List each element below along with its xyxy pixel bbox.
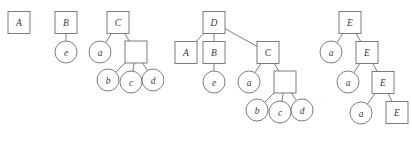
tree-edge <box>367 94 375 105</box>
nodes-layer: ABeCabcdDABCeabcdEaEaEaE <box>8 12 408 125</box>
tree-node-b: b <box>97 69 119 91</box>
tree-edge <box>337 34 343 43</box>
node-label: a <box>359 109 364 119</box>
tree-node-c: c <box>120 71 142 93</box>
tree-node-e: E <box>386 102 408 124</box>
tree-edge <box>196 34 203 42</box>
tree-node-e: e <box>203 71 225 93</box>
node-label: b <box>255 106 260 116</box>
node-label: a <box>247 78 252 88</box>
nonterminal-node-square <box>125 41 147 63</box>
tree-edge <box>116 63 125 72</box>
tree-node-a: a <box>238 71 260 93</box>
node-label: E <box>346 18 353 28</box>
tree-edge <box>356 34 361 42</box>
node-label: E <box>379 78 386 88</box>
tree-node-d: d <box>291 99 313 121</box>
tree-edge <box>125 34 130 42</box>
tree-node-d: d <box>142 69 164 91</box>
node-label: e <box>212 78 216 88</box>
node-label: E <box>363 48 370 58</box>
tree-edge <box>388 94 392 102</box>
tree-node-e: E <box>339 12 361 34</box>
tree-node-a: a <box>320 41 342 63</box>
tree-edge <box>274 64 278 72</box>
nonterminal-node-square <box>274 71 296 93</box>
tree-node-e: E <box>372 72 394 94</box>
tree-node-a: A <box>175 42 197 64</box>
tree-edge <box>106 34 112 43</box>
tree-node-empty <box>125 41 147 63</box>
tree-node-a: a <box>337 71 359 93</box>
node-label: D <box>210 18 218 28</box>
node-label: a <box>98 48 103 58</box>
node-label: B <box>211 48 217 58</box>
tree-edge <box>265 93 274 102</box>
diagram-root: ABeCabcdDABCeabcdEaEaEaE <box>0 0 412 147</box>
node-label: A <box>15 18 22 28</box>
tree-node-c: C <box>107 12 129 34</box>
tree-edge <box>292 93 297 101</box>
tree-node-c: c <box>269 101 291 123</box>
tree-node-b: B <box>203 42 225 64</box>
node-label: a <box>346 78 351 88</box>
tree-node-a: A <box>8 12 30 34</box>
tree-edge <box>282 93 283 101</box>
tree-node-e: e <box>55 41 77 63</box>
tree-node-empty <box>274 71 296 93</box>
node-label: e <box>64 48 68 58</box>
node-label: E <box>393 108 400 118</box>
tree-node-b: b <box>246 99 268 121</box>
node-label: B <box>63 18 69 28</box>
tree-node-a: a <box>89 41 111 63</box>
tree-edge <box>133 63 134 71</box>
node-label: b <box>106 76 111 86</box>
tree-node-b: B <box>55 12 77 34</box>
node-label: C <box>265 48 272 58</box>
derivation-trees-figure: ABeCabcdDABCeabcdEaEaEaE <box>0 0 412 147</box>
tree-node-d: D <box>203 12 225 34</box>
tree-node-a: a <box>350 102 372 124</box>
tree-edge <box>354 64 360 73</box>
node-label: a <box>329 48 334 58</box>
tree-edge <box>373 64 377 72</box>
node-label: d <box>151 76 156 86</box>
tree-node-e: E <box>356 42 378 64</box>
node-label: A <box>182 48 189 58</box>
node-label: C <box>115 18 122 28</box>
node-label: d <box>300 106 305 116</box>
tree-edge <box>225 29 257 47</box>
tree-edge <box>143 63 148 71</box>
tree-node-c: C <box>257 42 279 64</box>
tree-edge <box>255 64 261 73</box>
